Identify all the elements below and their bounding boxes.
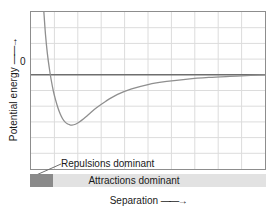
potential-energy-figure: Potential energy ——→ 0 bbox=[0, 0, 274, 219]
plot-svg bbox=[31, 12, 265, 169]
y-axis-zero-tick-label: 0 bbox=[20, 57, 26, 67]
y-axis-arrow: ——→ bbox=[8, 39, 19, 65]
potential-energy-curve bbox=[44, 12, 265, 125]
plot-area bbox=[30, 11, 266, 170]
y-axis-label: Potential energy ——→ bbox=[8, 39, 19, 141]
y-axis-label-text: Potential energy bbox=[8, 67, 19, 141]
x-axis-label-text: Separation bbox=[110, 195, 158, 206]
x-axis-label: Separation ——→ bbox=[30, 195, 266, 206]
x-axis-arrow: ——→ bbox=[161, 195, 187, 206]
repulsions-dominant-label: Repulsions dominant bbox=[61, 158, 154, 169]
attractions-dominant-label: Attractions dominant bbox=[30, 174, 266, 187]
dominance-bar: Attractions dominant bbox=[30, 174, 266, 187]
y-axis-label-container: Potential energy ——→ bbox=[0, 10, 26, 170]
